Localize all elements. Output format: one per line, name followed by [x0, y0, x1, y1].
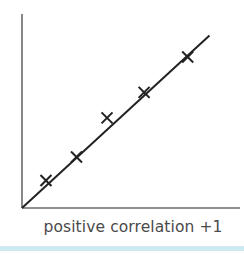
x-marker-icon [182, 52, 193, 63]
x-marker-icon [102, 112, 113, 123]
bottom-divider-bar [0, 246, 244, 251]
scatter-plot [0, 0, 244, 254]
x-marker-icon [40, 175, 51, 186]
regression-line [22, 36, 209, 208]
chart-caption: positive correlation +1 [0, 218, 244, 236]
x-marker-icon [71, 152, 82, 163]
trend-line [22, 36, 209, 208]
